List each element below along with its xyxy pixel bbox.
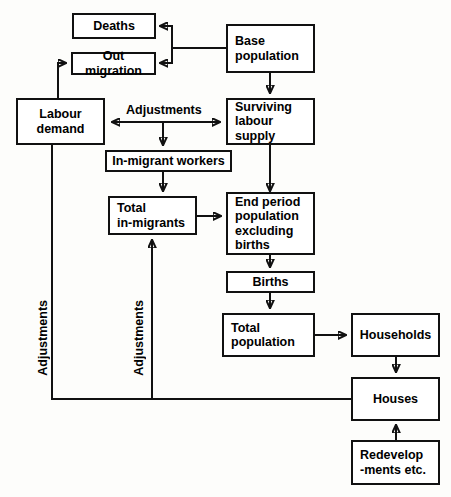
node-households-label: Households	[360, 328, 432, 343]
node-total-in-migrants[interactable]: Total in-migrants	[108, 196, 197, 235]
node-labour-demand[interactable]: Labour demand	[16, 98, 105, 145]
node-households[interactable]: Households	[351, 313, 440, 357]
edge-base-population-to-deaths-and-out-migration	[160, 26, 226, 63]
node-out-migration-label: Out migration	[77, 49, 150, 78]
node-base-population[interactable]: Base population	[226, 24, 315, 73]
node-deaths-label: Deaths	[93, 19, 135, 34]
edge-adjustments-labour-demand-surviving-supply	[112, 122, 220, 145]
node-total-population-label: Total population	[231, 321, 295, 350]
node-base-population-label: Base population	[235, 34, 299, 63]
node-surviving-labour-supply[interactable]: Surviving labour supply	[226, 98, 315, 145]
node-redevelopments-label: Redevelop -ments etc.	[360, 448, 426, 477]
node-in-migrant-workers[interactable]: In-migrant workers	[105, 150, 232, 172]
node-in-migrant-workers-label: In-migrant workers	[112, 154, 225, 169]
edge-label-adjustments-left-text: Adjustments	[36, 300, 50, 376]
edge-label-adjustments-top-text: Adjustments	[126, 103, 202, 117]
edge-label-adjustments-middle-text: Adjustments	[132, 300, 146, 376]
edge-label-adjustments-middle: Adjustments	[132, 300, 146, 376]
node-houses[interactable]: Houses	[351, 377, 440, 421]
node-total-population[interactable]: Total population	[222, 313, 315, 357]
edge-label-adjustments-top: Adjustments	[126, 103, 202, 117]
flowchart-canvas: Deaths Out migration Base population Lab…	[0, 0, 451, 497]
node-end-period-population-label: End period population excluding births	[235, 195, 300, 253]
edge-labour-demand-to-out-migration	[58, 63, 66, 98]
node-end-period-population[interactable]: End period population excluding births	[226, 192, 315, 255]
node-out-migration[interactable]: Out migration	[71, 52, 156, 75]
node-labour-demand-label: Labour demand	[37, 107, 85, 136]
node-total-in-migrants-label: Total in-migrants	[117, 201, 185, 230]
node-births[interactable]: Births	[226, 271, 315, 293]
node-surviving-labour-supply-label: Surviving labour supply	[235, 100, 292, 144]
node-births-label: Births	[252, 275, 288, 290]
edge-label-adjustments-left: Adjustments	[36, 300, 50, 376]
node-redevelopments[interactable]: Redevelop -ments etc.	[351, 440, 440, 485]
node-houses-label: Houses	[373, 392, 418, 407]
node-deaths[interactable]: Deaths	[72, 13, 156, 39]
